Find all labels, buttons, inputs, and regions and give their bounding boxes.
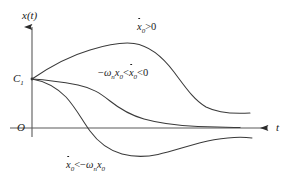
annotation-xdot0-positive: x0>0 [137, 22, 156, 33]
derivative-dot-icon [138, 18, 140, 20]
derivative-dot-icon [67, 156, 69, 158]
origin-label: O [17, 122, 25, 133]
curve-xdot0-negative [32, 79, 252, 156]
curve-xdot0-mid [32, 79, 240, 127]
x-axis-label: t [276, 122, 279, 133]
figure-container: x(t) t O C1 x0>0 −ωnx0<x0<0 x0<−ωnx0 [0, 0, 295, 186]
initial-point-marker [31, 78, 34, 81]
derivative-dot-icon [130, 64, 132, 66]
annotation-xdot0-mid: −ωnx0<x0<0 [98, 68, 148, 79]
y-axis-label: x(t) [22, 10, 37, 21]
initial-value-subscript: 1 [20, 79, 24, 87]
xdot-symbol: x [66, 160, 71, 171]
xdot-symbol: x [137, 22, 142, 33]
annotation-xdot0-negative: x0<−ωnx0 [66, 160, 105, 171]
initial-value-label: C1 [13, 73, 24, 84]
xdot-symbol: x [129, 68, 134, 79]
